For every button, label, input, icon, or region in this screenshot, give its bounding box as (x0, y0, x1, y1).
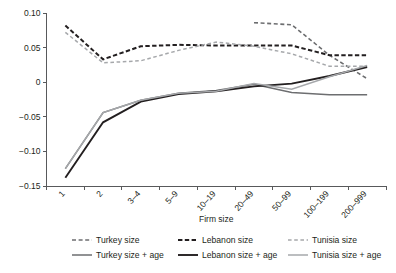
x-tick-label: 10–19 (194, 188, 217, 212)
legend-group: Turkey sizeLebanon sizeTunisia sizeTurke… (72, 235, 381, 260)
x-tick-label: 1 (56, 188, 67, 198)
x-tick-label: 20–49 (232, 188, 255, 212)
legend-label: Turkey size + age (96, 250, 164, 260)
x-tick-label: 3–4 (125, 188, 142, 205)
legend-label: Tunisia size + age (312, 250, 381, 260)
legend-label: Lebanon size + age (202, 250, 277, 260)
legend-label: Turkey size (96, 235, 140, 245)
series-line (65, 67, 367, 178)
x-tick-label: 50–99 (270, 188, 293, 212)
legend-label: Tunisia size (312, 235, 357, 245)
legend-label: Lebanon size (202, 235, 253, 245)
x-axis-title-group: Firm size (199, 214, 234, 224)
y-axis-tick-group: 0.100.050−0.05−0.10−0.15 (19, 8, 47, 191)
y-tick-label: −0.15 (19, 181, 41, 191)
series-line (65, 84, 367, 168)
axis-group (47, 13, 387, 186)
line-chart: 0.100.050−0.05−0.10−0.15 123–45–910–1920… (0, 0, 396, 273)
y-tick-label: 0 (36, 77, 41, 87)
y-tick-label: −0.10 (19, 146, 41, 156)
y-tick-label: −0.05 (19, 112, 41, 122)
x-tick-label: 5–9 (163, 188, 180, 205)
x-tick-label: 200–999 (339, 188, 369, 219)
y-tick-label: 0.05 (24, 43, 41, 53)
series-line (65, 32, 367, 66)
series-group (65, 23, 367, 178)
x-tick-label: 100–199 (301, 188, 331, 219)
y-tick-label: 0.10 (24, 8, 41, 18)
x-tick-label: 2 (94, 188, 105, 198)
figure-container: 0.100.050−0.05−0.10−0.15 123–45–910–1920… (0, 0, 396, 273)
x-axis-title: Firm size (199, 214, 234, 224)
